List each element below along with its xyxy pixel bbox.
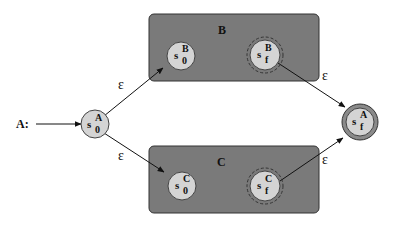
state-b-start: s B 0 <box>167 42 195 70</box>
svg-text:s: s <box>257 48 262 60</box>
svg-text:s: s <box>175 179 180 191</box>
state-c-start: s C 0 <box>168 172 196 200</box>
svg-text:s: s <box>174 49 179 61</box>
epsilon-label: ε <box>118 148 124 163</box>
svg-text:s: s <box>87 118 92 130</box>
box-b-label: B <box>218 23 226 37</box>
svg-text:B: B <box>182 43 189 54</box>
svg-text:C: C <box>265 173 272 184</box>
svg-text:0: 0 <box>182 55 187 66</box>
box-c-label: C <box>217 155 226 169</box>
svg-text:A: A <box>360 109 368 120</box>
svg-text:s: s <box>257 179 262 191</box>
epsilon-label: ε <box>118 77 124 92</box>
epsilon-label: ε <box>322 68 328 83</box>
svg-text:0: 0 <box>95 124 100 135</box>
transition-a0-b0: ε <box>104 68 163 116</box>
start-arrow: A: <box>16 117 81 131</box>
state-a-final: s A f <box>342 104 378 140</box>
svg-text:0: 0 <box>183 185 188 196</box>
state-a-start: s A 0 <box>81 110 109 138</box>
svg-text:A: A <box>95 112 103 123</box>
svg-text:s: s <box>352 115 357 127</box>
svg-text:B: B <box>265 42 272 53</box>
svg-text:C: C <box>183 173 190 184</box>
epsilon-label: ε <box>322 152 328 167</box>
start-label: A: <box>16 117 29 131</box>
nfa-diagram: B C A: ε ε ε ε s A 0 s B 0 <box>0 0 401 238</box>
